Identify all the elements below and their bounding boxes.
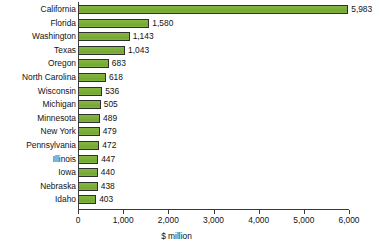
bar-value-label: 5,983 [351, 4, 372, 15]
x-axis-tick [304, 210, 305, 214]
x-axis-tick [349, 210, 350, 214]
category-label: Michigan [0, 99, 76, 110]
bar [78, 32, 130, 41]
category-label: New York [0, 126, 76, 137]
x-axis-tick-label: 5,000 [293, 215, 314, 225]
bar-row: Iowa440 [0, 167, 383, 180]
bar-value-label: 438 [101, 181, 115, 192]
bar-value-label: 403 [99, 194, 113, 205]
bar-row: Texas1,043 [0, 45, 383, 58]
x-axis-tick-label: 6,000 [339, 215, 360, 225]
bar [78, 5, 348, 14]
x-axis-tick [168, 210, 169, 214]
bar [78, 114, 100, 123]
x-axis-title-label: $ million [161, 231, 192, 241]
bar [78, 195, 96, 204]
x-axis-tick-label: 3,000 [203, 215, 224, 225]
bar-row: Nebraska438 [0, 181, 383, 194]
y-axis-line [78, 2, 79, 209]
bar [78, 59, 109, 68]
bar-value-label: 1,043 [128, 45, 149, 56]
bar-row: Oregon683 [0, 58, 383, 71]
bar-value-label: 479 [103, 126, 117, 137]
bar-value-label: 505 [104, 99, 118, 110]
bar-row: Illinois447 [0, 154, 383, 167]
bar [78, 46, 125, 55]
bar-value-label: 1,143 [133, 31, 154, 42]
category-label: California [0, 4, 76, 15]
category-label: Washington [0, 31, 76, 42]
bar-value-label: 447 [101, 154, 115, 165]
category-label: Pennsylvania [0, 140, 76, 151]
category-label: Oregon [0, 58, 76, 69]
bar-row: Minnesota489 [0, 113, 383, 126]
bar-value-label: 440 [101, 167, 115, 178]
bar-value-label: 683 [112, 58, 126, 69]
x-axis-tick [259, 210, 260, 214]
bar [78, 87, 102, 96]
category-label: Florida [0, 18, 76, 29]
bar-value-label: 536 [105, 86, 119, 97]
x-axis-tick-label: 2,000 [158, 215, 179, 225]
bar [78, 155, 98, 164]
category-label: Wisconsin [0, 86, 76, 97]
category-label: Texas [0, 45, 76, 56]
bar [78, 182, 98, 191]
bar-row: North Carolina618 [0, 72, 383, 85]
bar-value-label: 1,580 [152, 18, 173, 29]
x-axis-tick-label: 4,000 [248, 215, 269, 225]
bar-row: Idaho403 [0, 194, 383, 207]
bar-value-label: 489 [103, 113, 117, 124]
bar-chart: California5,983Florida1,580Washington1,1… [0, 0, 383, 251]
x-axis-tick [123, 210, 124, 214]
category-label: Iowa [0, 167, 76, 178]
x-axis-title: $ million [0, 231, 383, 241]
bar-value-label: 472 [102, 140, 116, 151]
x-axis-tick-label: 1,000 [113, 215, 134, 225]
category-label: North Carolina [0, 72, 76, 83]
bar-row: Wisconsin536 [0, 86, 383, 99]
bar-row: Florida1,580 [0, 18, 383, 31]
bar [78, 127, 100, 136]
bar [78, 73, 106, 82]
bar-row: New York479 [0, 126, 383, 139]
bar-row: Washington1,143 [0, 31, 383, 44]
x-axis-tick [214, 210, 215, 214]
x-axis-tick-label: 0 [76, 215, 81, 225]
bar [78, 141, 99, 150]
category-label: Idaho [0, 194, 76, 205]
category-label: Minnesota [0, 113, 76, 124]
category-label: Nebraska [0, 181, 76, 192]
bar-row: Pennsylvania472 [0, 140, 383, 153]
bar [78, 168, 98, 177]
bar [78, 19, 149, 28]
bar-row: California5,983 [0, 4, 383, 17]
bar [78, 100, 101, 109]
category-label: Illinois [0, 154, 76, 165]
bar-value-label: 618 [109, 72, 123, 83]
x-axis-tick [78, 210, 79, 214]
bar-row: Michigan505 [0, 99, 383, 112]
